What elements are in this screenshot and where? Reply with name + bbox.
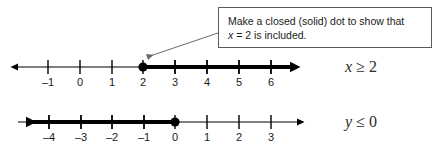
- tick-label-x-0: 0: [70, 76, 90, 88]
- closed-dot-x: [138, 62, 147, 71]
- callout-box: Make a closed (solid) dot to show that x…: [218, 7, 432, 48]
- callout-leader-line: [147, 33, 218, 57]
- tick-label-x-1: 1: [102, 76, 122, 88]
- inequality-label-y-relation: ≤: [356, 113, 365, 130]
- tick-label-x-2: 2: [133, 76, 153, 88]
- tick-label-y--2: –2: [102, 131, 122, 143]
- tick-label-x--1: –1: [38, 76, 58, 88]
- inequality-label-y-variable: y: [345, 113, 352, 130]
- inequality-label-x-relation: ≥: [356, 58, 365, 75]
- tick-label-y--4: –4: [39, 131, 59, 143]
- closed-dot-y: [170, 117, 179, 126]
- tick-label-y--1: –1: [134, 131, 154, 143]
- callout-text: Make a closed (solid) dot to show that x…: [228, 14, 426, 42]
- inequality-label-y: y ≤ 0: [345, 113, 377, 131]
- number-line-x-group: [18, 60, 297, 74]
- callout-line-2-rest: = 2 is included.: [233, 29, 306, 41]
- tick-label-x-4: 4: [197, 76, 217, 88]
- tick-label-y--3: –3: [71, 131, 91, 143]
- tick-label-y-3: 3: [261, 131, 281, 143]
- tick-label-x-6: 6: [261, 76, 281, 88]
- tick-label-y-0: 0: [165, 131, 185, 143]
- tick-label-x-5: 5: [229, 76, 249, 88]
- inequality-label-y-value: 0: [369, 113, 377, 130]
- inequality-label-x: x ≥ 2: [345, 58, 377, 76]
- tick-label-y-1: 1: [197, 131, 217, 143]
- inequality-label-x-value: 2: [369, 58, 377, 75]
- number-line-y-group: [18, 115, 297, 129]
- tick-label-y-2: 2: [229, 131, 249, 143]
- tick-label-x-3: 3: [165, 76, 185, 88]
- number-line-figure: Make a closed (solid) dot to show that x…: [0, 0, 447, 157]
- inequality-label-x-variable: x: [345, 58, 352, 75]
- callout-line-1: Make a closed (solid) dot to show that: [228, 15, 404, 27]
